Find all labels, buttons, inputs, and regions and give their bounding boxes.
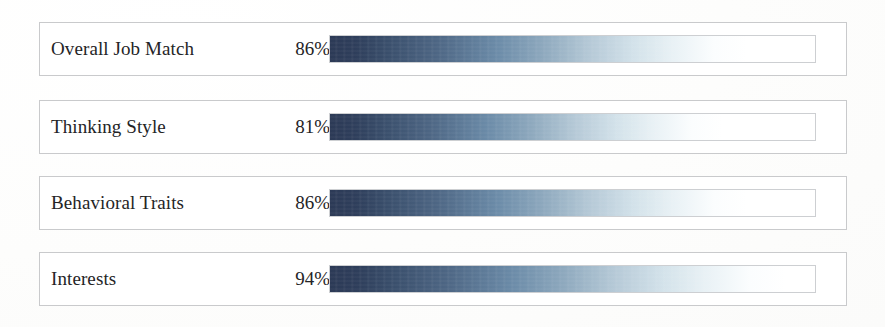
- score-meter-fill: [330, 266, 786, 292]
- score-row-overall-job-match: Overall Job Match 86%: [39, 22, 847, 76]
- score-meter-fill: [330, 36, 747, 62]
- score-row-label: Interests: [51, 268, 116, 290]
- score-row-percent: 86%: [272, 38, 330, 60]
- score-row-label: Behavioral Traits: [51, 192, 184, 214]
- score-row-behavioral-traits: Behavioral Traits 86%: [39, 176, 847, 230]
- score-row-percent: 86%: [272, 192, 330, 214]
- score-meter-track: [329, 113, 816, 141]
- score-breakdown-panel: Overall Job Match 86% Thinking Style 81%…: [0, 0, 885, 327]
- score-row-percent: 94%: [272, 268, 330, 290]
- score-meter-track: [329, 189, 816, 217]
- score-row-interests: Interests 94%: [39, 252, 847, 306]
- score-row-label: Thinking Style: [51, 116, 166, 138]
- score-meter-track: [329, 265, 816, 293]
- score-meter-fill: [330, 114, 723, 140]
- score-row-percent: 81%: [272, 116, 330, 138]
- score-meter-track: [329, 35, 816, 63]
- score-row-thinking-style: Thinking Style 81%: [39, 100, 847, 154]
- score-row-label: Overall Job Match: [51, 38, 194, 60]
- score-meter-fill: [330, 190, 747, 216]
